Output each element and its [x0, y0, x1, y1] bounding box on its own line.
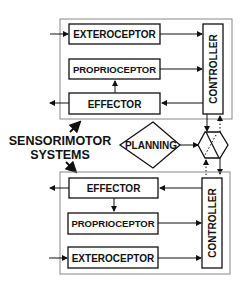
svg-text:CONTROLLER: CONTROLLER: [208, 34, 219, 104]
caption-arrow-up: [70, 122, 80, 132]
svg-text:EFFECTOR: EFFECTOR: [88, 99, 142, 110]
svg-text:PLANNING: PLANNING: [125, 140, 177, 151]
svg-text:PROPRIOCEPTOR: PROPRIOCEPTOR: [71, 218, 154, 229]
svg-text:CONTROLLER: CONTROLLER: [207, 188, 218, 258]
top-exteroceptor-box: EXTEROCEPTOR: [69, 24, 160, 44]
bottom-proprioceptor-box: PROPRIOCEPTOR: [68, 213, 158, 234]
top-proprioceptor-box: PROPRIOCEPTOR: [69, 59, 160, 79]
bottom-controller-box: CONTROLLER: [202, 178, 222, 268]
svg-text:EXTEROCEPTOR: EXTEROCEPTOR: [73, 29, 156, 40]
bottom-effector-box: EFFECTOR: [69, 178, 158, 198]
arbiter-hexagon: [198, 132, 228, 158]
caption-systems: SYSTEMS: [30, 148, 90, 162]
top-effector-box: EFFECTOR: [69, 93, 160, 114]
caption-sensorimotor: SENSORIMOTOR: [9, 134, 112, 148]
top-controller-box: CONTROLLER: [203, 24, 223, 114]
planning-diamond: PLANNING: [120, 122, 180, 168]
svg-text:EFFECTOR: EFFECTOR: [87, 183, 141, 194]
caption-arrow-down: [66, 162, 76, 172]
bottom-exteroceptor-box: EXTEROCEPTOR: [68, 247, 158, 268]
svg-text:PROPRIOCEPTOR: PROPRIOCEPTOR: [73, 64, 156, 75]
svg-text:EXTEROCEPTOR: EXTEROCEPTOR: [72, 253, 155, 264]
sensorimotor-diagram: EXTEROCEPTOR PROPRIOCEPTOR EFFECTOR CONT…: [0, 0, 244, 287]
